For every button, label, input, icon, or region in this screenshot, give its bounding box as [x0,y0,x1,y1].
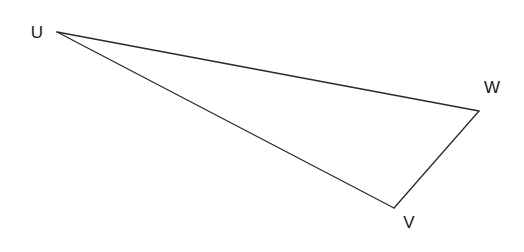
edge-u-w [57,32,479,111]
triangle-diagram [0,0,524,252]
vertex-label-u: U [31,24,43,41]
vertex-label-v: V [403,214,414,231]
edge-v-u [57,32,394,208]
vertex-label-w: W [484,79,500,96]
edge-w-v [394,111,479,208]
